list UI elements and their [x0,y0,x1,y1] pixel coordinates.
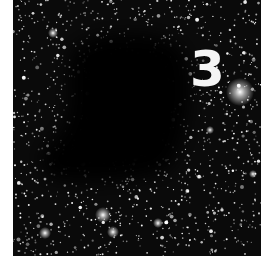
starfield-photo: 3 [13,0,261,256]
star-field [13,0,261,256]
image-number-label: 3 [190,44,225,94]
bright-star [226,78,254,106]
dark-nebula [41,33,189,182]
